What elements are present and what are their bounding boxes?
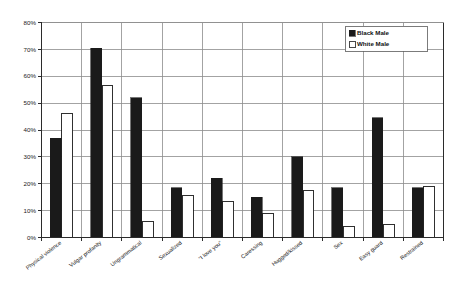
xtick-label: Vulgar profanity [68,239,103,268]
bar-black-male[interactable] [412,188,423,238]
bar-black-male[interactable] [211,178,222,237]
ytick-label: 10% [24,207,37,214]
ytick-label: 60% [24,72,37,79]
bar-black-male[interactable] [251,197,262,237]
bar-black-male[interactable] [171,188,182,238]
bar-white-male[interactable] [182,196,193,238]
xtick-label: Caressing [240,240,264,260]
bar-white-male[interactable] [303,190,314,237]
bar-white-male[interactable] [263,213,274,237]
bar-white-male[interactable] [62,114,73,238]
bar-black-male[interactable] [50,138,61,237]
legend-swatch-black-male-icon [349,30,355,36]
bar-white-male[interactable] [383,224,394,237]
ytick-label: 20% [24,180,37,187]
legend-label: White Male [357,40,390,47]
bar-black-male[interactable] [332,188,343,238]
bar-white-male[interactable] [142,221,153,237]
ytick-label: 30% [24,153,37,160]
legend-label: Black Male [357,29,390,36]
bar-white-male[interactable] [223,201,234,237]
xtick-label: "I love you" [197,240,223,262]
bar-chart: 0%10%20%30%40%50%60%70%80%Physical viole… [0,0,451,301]
ytick-label: 70% [24,46,37,53]
bar-white-male[interactable] [343,227,354,238]
xtick-label: Sex [332,239,343,250]
bar-black-male[interactable] [131,98,142,238]
bar-white-male[interactable] [102,86,113,238]
xtick-label: Physical violence [25,240,63,271]
ytick-label: 0% [27,234,36,241]
legend-swatch-white-male-icon [349,41,355,47]
chart-canvas: 0%10%20%30%40%50%60%70%80%Physical viole… [0,0,451,301]
bar-black-male[interactable] [372,118,383,238]
ytick-label: 80% [24,19,37,26]
bar-white-male[interactable] [424,186,435,237]
xtick-label: Sexualized [158,240,183,262]
xtick-label: Hugged/kissed [271,240,304,268]
xtick-label: Ungrammatical [109,240,142,268]
bar-black-male[interactable] [292,157,303,238]
bar-black-male[interactable] [91,48,102,237]
ytick-label: 40% [24,126,37,133]
ytick-label: 50% [24,99,37,106]
xtick-label: Easy guard [358,240,384,262]
xtick-label: Restrained [399,240,424,261]
